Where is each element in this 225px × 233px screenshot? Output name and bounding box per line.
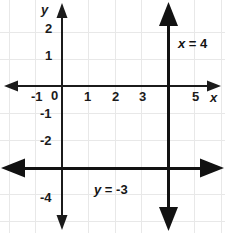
y-tick-label-neg4: -4: [40, 191, 52, 204]
coordinate-plane-figure: -1 0 1 2 3 5 2 1 -1 -2 -4 x y x = 4 y = …: [0, 0, 225, 233]
y-tick-label-neg1: -1: [40, 107, 52, 120]
line-x-equals-4: [159, 2, 178, 231]
line-y-equals-minus-3: [1, 159, 224, 178]
y-axis-arrow-up-icon: [57, 3, 68, 18]
y-axis-arrow-down-icon: [57, 215, 68, 230]
x-axis-label: x: [210, 91, 217, 104]
annotation-y-equals-minus-3: y = -3: [94, 183, 128, 196]
origin-label: 0: [51, 89, 58, 102]
line-y-equals-minus-3-arrow-right-icon: [200, 159, 224, 178]
coordinate-plane-canvas: [0, 0, 225, 233]
gridlines: [0, 0, 225, 233]
y-tick-label-2: 2: [45, 22, 52, 35]
x-axis-arrow-left-icon: [4, 81, 18, 92]
y-tick-label-1: 1: [45, 49, 52, 62]
line-y-equals-minus-3-arrow-left-icon: [1, 159, 25, 178]
x-tick-label-5: 5: [192, 90, 199, 103]
x-tick-label-1: 1: [84, 90, 91, 103]
line-x-equals-4-arrow-down-icon: [159, 207, 178, 231]
line-x-equals-4-arrow-up-icon: [159, 2, 178, 26]
x-tick-label-neg1: -1: [31, 90, 43, 103]
y-axis: [57, 3, 68, 230]
annotation-y-equals-minus-3-value: = -3: [101, 182, 127, 197]
y-tick-label-neg2: -2: [40, 134, 52, 147]
x-tick-label-3: 3: [139, 90, 146, 103]
x-tick-label-2: 2: [112, 90, 119, 103]
annotation-x-equals-4: x = 4: [178, 37, 207, 50]
y-axis-label: y: [41, 3, 48, 16]
annotation-x-equals-4-value: = 4: [185, 36, 207, 51]
